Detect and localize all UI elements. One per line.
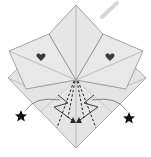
hint-arrow <box>102 3 117 17</box>
diagram-canvas <box>0 0 151 157</box>
origami-diagram <box>0 0 151 157</box>
star-left-icon <box>15 110 27 122</box>
star-right-icon <box>123 112 135 124</box>
